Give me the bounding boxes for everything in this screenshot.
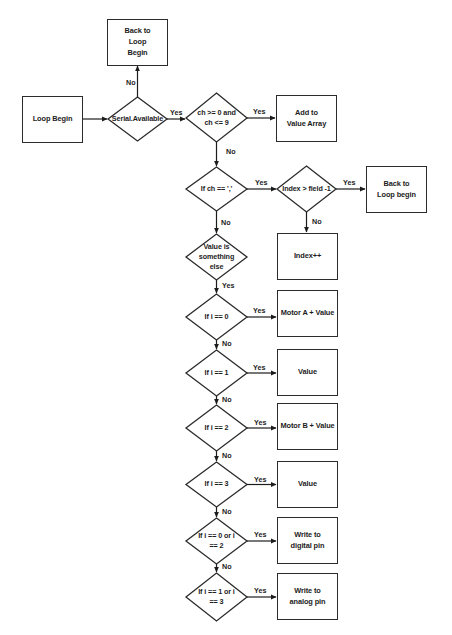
node-label: Back to Loop begin: [375, 179, 418, 200]
label-if-i-2: If i == 2: [186, 419, 247, 437]
edge-label-yes: Yes: [170, 108, 182, 117]
node-label: Loop Begin: [33, 114, 73, 125]
label-if-i-0: If i == 0: [186, 308, 247, 326]
node-label: Back to Loop Begin: [118, 26, 157, 58]
edge-label-yes: Yes: [253, 363, 265, 372]
node-motor-a-value: Motor A + Value: [277, 290, 338, 337]
flowchart-canvas: Loop Begin Back to Loop Begin Add to Val…: [0, 0, 452, 635]
edge-label-yes: Yes: [253, 306, 265, 315]
label-if-ch-comma: If ch == ',': [186, 180, 247, 198]
edge-label-yes: Yes: [255, 178, 267, 187]
label-if-i-0-or-2: If i == 0 or i == 2: [197, 529, 236, 553]
edge-label-yes: Yes: [254, 586, 266, 595]
node-label: Write to digital pin: [284, 530, 331, 551]
label-if-i-1: If i == 1: [186, 364, 247, 382]
edge-label-yes: Yes: [254, 530, 266, 539]
node-write-analog-pin: Write to analog pin: [277, 573, 338, 620]
node-label: Motor B + Value: [280, 421, 334, 432]
node-label: Add to Value Array: [285, 108, 328, 129]
node-label: Motor A + Value: [281, 308, 335, 319]
edge-label-no: No: [222, 451, 232, 460]
edge-label-yes: Yes: [253, 107, 265, 116]
edge-label-no: No: [222, 395, 232, 404]
edge-label-no: No: [222, 507, 232, 516]
edge-label-no: No: [221, 218, 231, 227]
node-back-to-loop-begin-top: Back to Loop Begin: [107, 19, 168, 66]
edge-label-yes: Yes: [254, 418, 266, 427]
edge-label-no: No: [126, 78, 136, 87]
label-ch-range-check: ch >= 0 and ch <= 9: [194, 104, 239, 132]
edge-label-yes: Yes: [254, 475, 266, 484]
edge-label-yes: Yes: [222, 281, 234, 290]
label-if-i-1-or-3: If i == 1 or i == 3: [197, 585, 236, 609]
node-label: Value: [298, 367, 317, 378]
edge-label-no: No: [222, 339, 232, 348]
node-value-3: Value: [277, 461, 338, 508]
label-if-i-3: If i == 3: [186, 475, 247, 493]
node-add-to-value-array: Add to Value Array: [276, 95, 337, 142]
node-index-increment: Index++: [277, 233, 338, 280]
node-label: Value: [298, 479, 317, 490]
edge-label-no: No: [226, 147, 236, 156]
node-label: Index++: [294, 251, 321, 262]
node-write-digital-pin: Write to digital pin: [277, 517, 338, 564]
edge-label-no: No: [222, 562, 232, 571]
label-value-something-else: Value is something else: [196, 241, 237, 273]
node-motor-b-value: Motor B + Value: [277, 403, 338, 450]
node-back-to-loop-begin-right: Back to Loop begin: [366, 166, 427, 213]
edge-label-yes: Yes: [343, 178, 355, 187]
node-label: Write to analog pin: [283, 586, 332, 607]
label-serial-available: Serial.Available: [108, 109, 167, 129]
label-index-gt-field: Index > field -1: [277, 180, 336, 198]
node-loop-begin: Loop Begin: [22, 96, 83, 143]
edge-label-no: No: [312, 217, 322, 226]
node-value-1: Value: [277, 349, 338, 396]
